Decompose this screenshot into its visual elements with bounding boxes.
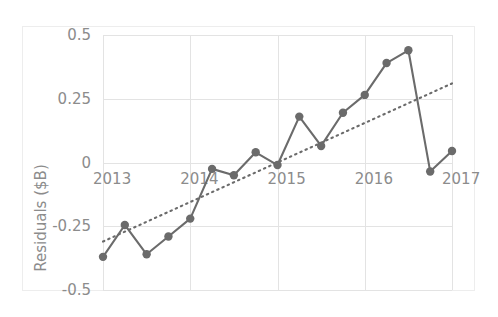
data-point-marker [208, 165, 216, 173]
x-tick-label: 2013 [93, 170, 131, 188]
y-axis-title: Residuals ($B) [32, 164, 50, 271]
data-point-marker [339, 109, 347, 117]
residuals-line-chart: 0.50.250-0.25-0.5 20132014201520162017 R… [0, 0, 498, 317]
data-point-marker [295, 112, 303, 120]
data-point-marker [361, 91, 369, 99]
y-tick-label: 0.25 [58, 90, 91, 108]
y-tick-label: 0.5 [67, 26, 91, 44]
y-tick-label: 0 [81, 154, 91, 172]
y-tick-label: -0.25 [52, 217, 91, 235]
data-point-marker [251, 148, 259, 156]
data-point-marker [164, 232, 172, 240]
data-point-marker [382, 59, 390, 67]
residuals-series-line [103, 50, 452, 257]
x-axis-tick-labels: 20132014201520162017 [93, 170, 480, 188]
x-tick-label: 2015 [268, 170, 306, 188]
data-point-marker [230, 171, 238, 179]
x-tick-label: 2016 [355, 170, 393, 188]
data-point-marker [121, 221, 129, 229]
y-axis-tick-labels: 0.50.250-0.25-0.5 [52, 26, 91, 299]
data-point-marker [317, 142, 325, 150]
chart-container: 0.50.250-0.25-0.5 20132014201520162017 R… [0, 0, 498, 317]
data-point-marker [99, 253, 107, 261]
data-point-marker [448, 147, 456, 155]
data-point-marker [273, 161, 281, 169]
data-point-marker [186, 214, 194, 222]
data-point-marker [142, 250, 150, 258]
data-point-marker [426, 167, 434, 175]
y-tick-label: -0.5 [62, 281, 91, 299]
x-tick-label: 2017 [442, 170, 480, 188]
data-point-marker [404, 46, 412, 54]
data-point-markers [99, 46, 456, 261]
